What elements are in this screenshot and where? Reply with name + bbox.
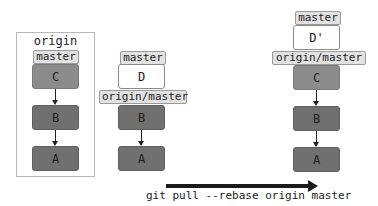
rebased-origin-master-label: origin/master: [272, 51, 366, 65]
local-master-label: master: [120, 51, 166, 65]
origin-commit-a: A: [32, 146, 79, 171]
commit-label: A: [52, 152, 59, 166]
commit-label: A: [138, 152, 145, 166]
commit-label: C: [52, 70, 59, 84]
local-commit-d: D: [118, 64, 165, 89]
rebased-commit-d-prime: D': [293, 25, 340, 50]
local-commit-b: B: [118, 105, 165, 130]
local-origin-master-label: origin/master: [99, 90, 187, 104]
rebased-master-label: master: [295, 11, 341, 25]
commit-label: B: [138, 111, 145, 125]
origin-commit-b: B: [32, 105, 79, 130]
command-arrow-line: [166, 184, 310, 188]
rebased-commit-c: C: [293, 65, 340, 90]
command-text: git pull --rebase origin master: [146, 189, 351, 202]
rebased-commit-b: B: [293, 106, 340, 131]
commit-label: B: [313, 112, 320, 126]
local-commit-a: A: [118, 146, 165, 171]
origin-title: origin: [16, 34, 95, 48]
commit-label: C: [313, 71, 320, 85]
rebased-commit-a: A: [293, 147, 340, 172]
origin-master-label: master: [33, 50, 79, 64]
origin-commit-c: C: [32, 64, 79, 89]
commit-label: D: [138, 70, 145, 84]
commit-label: A: [313, 153, 320, 167]
commit-label: B: [52, 111, 59, 125]
commit-label: D': [309, 31, 323, 45]
